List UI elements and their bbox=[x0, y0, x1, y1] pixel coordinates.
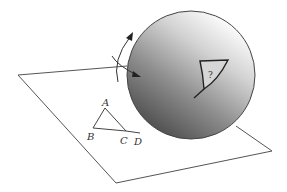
planar-triangle: A B C D bbox=[86, 97, 142, 147]
unknown-angle-label: ? bbox=[208, 70, 213, 80]
vertex-label-a: A bbox=[101, 97, 109, 108]
diagram-canvas: A B C D ? bbox=[0, 0, 287, 192]
vertex-label-c: C bbox=[120, 135, 128, 146]
arrowhead-up-icon bbox=[126, 32, 133, 41]
extension-line-cd bbox=[126, 131, 140, 133]
vertex-label-d: D bbox=[133, 136, 142, 147]
vertex-label-b: B bbox=[86, 131, 94, 142]
sphere: ? bbox=[127, 11, 255, 139]
